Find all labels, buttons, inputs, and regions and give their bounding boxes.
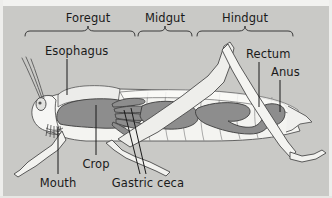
brace-foregut: [25, 26, 135, 36]
eye-pupil: [38, 101, 41, 104]
brace-hindgut: [197, 26, 293, 36]
region-label-midgut: Midgut: [145, 12, 185, 25]
region-label-hindgut: Hindgut: [222, 12, 268, 25]
part-label-rectum: Rectum: [246, 48, 290, 61]
part-label-anus: Anus: [271, 66, 300, 79]
middle-leg: [106, 140, 170, 176]
antennae: [22, 57, 44, 98]
grasshopper-illustration: [0, 0, 332, 198]
part-label-gastric-ceca: Gastric ceca: [112, 177, 184, 190]
region-label-foregut: Foregut: [66, 12, 111, 25]
insect-anatomy-figure: Foregut Midgut Hindgut Esophagus Rectum …: [0, 0, 332, 198]
brace-midgut: [138, 26, 192, 36]
part-label-esophagus: Esophagus: [45, 45, 108, 58]
part-label-crop: Crop: [82, 158, 109, 171]
part-label-mouth: Mouth: [40, 177, 77, 190]
region-braces: [25, 26, 293, 36]
